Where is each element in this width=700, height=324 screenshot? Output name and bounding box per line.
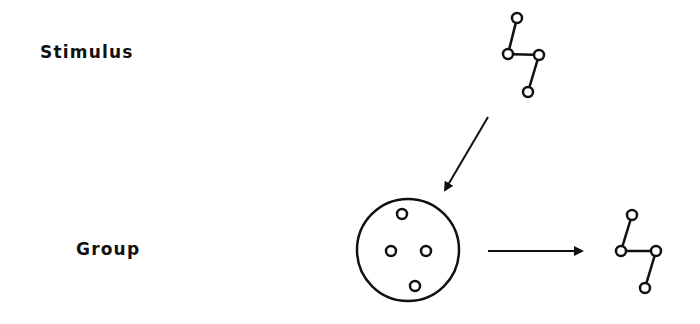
graph-edge (509, 23, 516, 49)
graph-node (651, 246, 661, 256)
graph-node (616, 246, 626, 256)
group-circle (357, 199, 459, 301)
group-member-node (410, 281, 420, 291)
graph-node (640, 283, 650, 293)
group-member-node (421, 246, 431, 256)
output-graph (616, 210, 661, 293)
graph-node (627, 210, 637, 220)
graph-edge (529, 60, 537, 87)
graph-edge (513, 54, 534, 55)
graph-edge (622, 220, 630, 246)
graph-edge (646, 256, 654, 283)
stimulus-to-group-arrow-icon (445, 117, 488, 190)
graph-node (503, 49, 513, 59)
graph-node (534, 50, 544, 60)
graph-node (523, 87, 533, 97)
graph-node (512, 13, 522, 23)
group-member-node (397, 209, 407, 219)
group-member-node (386, 246, 396, 256)
diagram-canvas (0, 0, 700, 324)
arrows (445, 117, 582, 251)
stimulus-graph (503, 13, 544, 97)
